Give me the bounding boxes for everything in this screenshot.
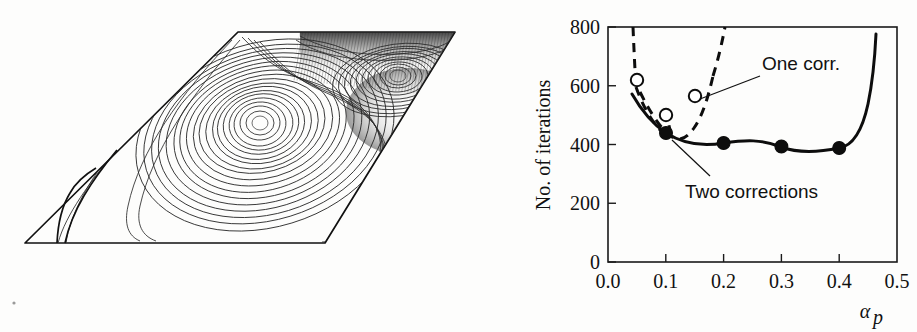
- one-corr-marker-1: [660, 109, 672, 121]
- figure-root: 0 200 400 600 800 No. of iterations 0.0 …: [0, 0, 917, 332]
- streamline-group: [58, 8, 470, 261]
- x-axis-ticks: [666, 254, 839, 262]
- x-axis-title-subscript: p: [871, 306, 883, 329]
- chart-svg: 0 200 400 600 800 No. of iterations 0.0 …: [470, 0, 917, 332]
- x-tick-label-0-1: 0.1: [653, 270, 678, 292]
- y-axis-title: No. of iterations: [532, 80, 554, 211]
- convergence-chart-panel: 0 200 400 600 800 No. of iterations 0.0 …: [470, 0, 917, 332]
- plot-frame: [608, 27, 897, 262]
- two-corr-marker-1: [717, 137, 730, 150]
- x-axis-title: α p: [860, 300, 883, 329]
- scan-artifact-speck: [12, 301, 15, 304]
- y-tick-label-600: 600: [570, 75, 600, 97]
- series-one-correction: [631, 27, 725, 139]
- one-corr-marker-0: [631, 74, 643, 86]
- streamline-contour-panel: [0, 0, 470, 332]
- annotation-one-corr: One corr.: [700, 53, 840, 99]
- x-tick-label-0-0: 0.0: [596, 270, 621, 292]
- two-corr-marker-3: [833, 142, 846, 155]
- y-axis-tick-labels: 0 200 400 600 800: [570, 16, 600, 273]
- contour-svg: [0, 0, 470, 332]
- one-corr-leader-line: [700, 76, 760, 99]
- x-tick-label-0-2: 0.2: [711, 270, 736, 292]
- x-tick-label-0-3: 0.3: [769, 270, 794, 292]
- one-corr-label: One corr.: [762, 53, 840, 74]
- x-tick-label-0-4: 0.4: [827, 270, 852, 292]
- corner-eddy-streamlines: [58, 148, 118, 243]
- y-tick-label-400: 400: [570, 134, 600, 156]
- y-tick-label-200: 200: [570, 192, 600, 214]
- x-tick-label-0-5: 0.5: [885, 270, 910, 292]
- one-corr-marker-2: [689, 90, 701, 102]
- y-axis-ticks: [608, 27, 616, 262]
- one-corr-valley: [640, 76, 713, 139]
- x-axis-tick-labels: 0.0 0.1 0.2 0.3 0.4 0.5: [596, 270, 910, 292]
- y-tick-label-800: 800: [570, 16, 600, 38]
- two-corr-marker-2: [775, 140, 788, 153]
- two-corr-marker-0: [660, 127, 673, 140]
- one-corr-right-branch-upper: [713, 27, 725, 76]
- x-axis-title-alpha: α: [860, 300, 871, 322]
- two-corrections-label: Two corrections: [685, 181, 818, 202]
